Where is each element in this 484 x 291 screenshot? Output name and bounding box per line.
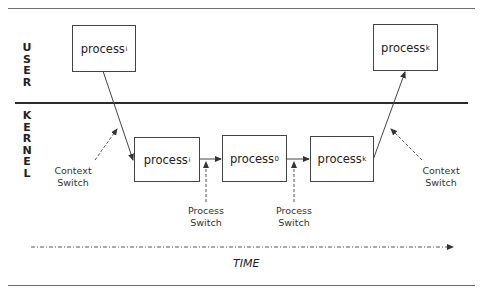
syscall-arrow: [103, 71, 133, 160]
process-label: process: [144, 153, 188, 167]
process-subscript: 0: [275, 155, 279, 163]
process-subscript: i: [125, 45, 127, 53]
process-label: process: [230, 152, 274, 166]
time-axis-label: TIME: [233, 257, 259, 270]
process-switch-label-1: Process Switch: [183, 205, 229, 229]
user-process-i: processi: [72, 25, 136, 72]
process-label: process: [81, 42, 125, 56]
context-switch-label-left: Context Switch: [50, 165, 96, 189]
user-process-k: processk: [373, 24, 438, 71]
process-subscript: i: [188, 156, 190, 164]
context-switch-label-right: Context Switch: [418, 165, 464, 189]
kernel-process-k: processk: [310, 136, 374, 182]
context-switch-pointer-left: [95, 129, 117, 160]
kernel-process-i: processi: [134, 137, 200, 182]
return-arrow: [373, 72, 405, 160]
process-label: process: [318, 152, 362, 166]
process-label: process: [381, 41, 425, 55]
context-switch-pointer-right: [391, 129, 422, 160]
process-subscript: k: [426, 44, 430, 52]
process-switch-label-2: Process Switch: [271, 205, 317, 229]
kernel-process-0: process0: [222, 135, 287, 182]
process-subscript: k: [362, 155, 366, 163]
